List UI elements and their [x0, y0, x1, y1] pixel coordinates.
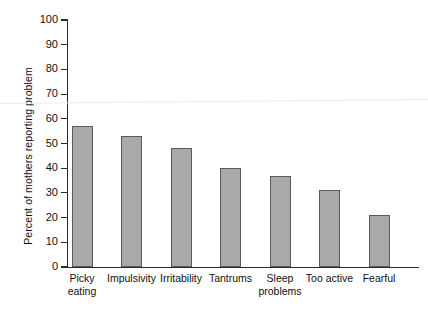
y-axis-tick-label: 90: [25, 39, 58, 51]
bar: [220, 168, 241, 267]
y-axis-tick-label-text: 10: [28, 236, 58, 247]
y-axis-tick: [61, 192, 68, 193]
bar: [270, 176, 291, 267]
y-axis-tick-label-text: 0: [28, 261, 58, 272]
y-axis-tick-label: 40: [25, 162, 58, 174]
bar: [369, 215, 390, 267]
y-axis-tick-label-text: 70: [28, 88, 58, 99]
y-axis-tick: [61, 94, 68, 95]
y-axis-tick: [61, 266, 68, 267]
y-axis-tick-label-text: 50: [28, 138, 58, 149]
bar-chart-figure: Percent of mothers reporting problem 100…: [0, 0, 428, 315]
y-axis-tick-label-text: 30: [28, 187, 58, 198]
bar: [171, 148, 192, 267]
x-axis-category-label: Fearful: [341, 272, 417, 285]
y-axis-tick-label: 60: [25, 113, 58, 125]
y-axis-tick-label: 70: [25, 88, 58, 100]
x-axis-line: [67, 267, 419, 268]
y-axis-tick-label-text: 90: [28, 39, 58, 50]
y-axis-tick: [61, 168, 68, 169]
x-axis-category-label-line: Fearful: [341, 272, 417, 285]
y-axis-tick: [61, 118, 68, 119]
y-axis-tick: [61, 69, 68, 70]
y-axis-tick: [61, 217, 68, 218]
y-axis-tick-label: 50: [25, 138, 58, 150]
y-axis-tick-label-text: 60: [28, 113, 58, 124]
y-axis-tick-label: 80: [25, 63, 58, 75]
y-axis-tick-label: 10: [25, 236, 58, 248]
y-axis-tick: [61, 44, 68, 45]
y-axis-tick-label-text: 20: [28, 212, 58, 223]
y-axis-tick-label: 100: [25, 14, 58, 26]
bar: [319, 190, 340, 267]
y-axis-tick-label-text: 80: [28, 63, 58, 74]
y-axis-tick: [61, 242, 68, 243]
y-axis-tick: [61, 143, 68, 144]
y-axis-tick-label-text: 100: [28, 14, 58, 25]
y-axis-tick-label: 30: [25, 187, 58, 199]
y-axis-tick-label: 20: [25, 212, 58, 224]
x-axis-category-label-line: eating: [44, 285, 120, 298]
bar: [72, 126, 93, 267]
x-axis-category-label-line: problems: [242, 285, 318, 298]
y-axis-tick: [61, 19, 68, 20]
scan-artifact-line: [0, 99, 428, 104]
bar: [121, 136, 142, 267]
y-axis-tick-label-text: 40: [28, 162, 58, 173]
